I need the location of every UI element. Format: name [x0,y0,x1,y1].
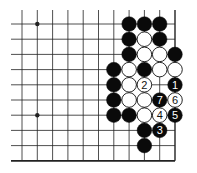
white-stone [152,47,167,62]
white-stone [122,62,137,77]
black-stone [107,93,122,108]
move-number-label: 6 [172,94,178,106]
white-stone [152,62,167,77]
black-stone [152,17,167,32]
black-stone [122,17,137,32]
black-stone: 1 [168,78,183,93]
move-number-label: 4 [157,109,163,121]
black-stone [168,47,183,62]
white-stone: 2 [137,78,152,93]
black-stone [137,62,152,77]
black-stone [137,17,152,32]
move-number-label: 5 [172,109,178,121]
black-stone [107,108,122,123]
black-stone: 3 [152,123,167,138]
star-point-icon [35,22,39,26]
go-board: 2176453 [0,0,197,173]
move-number-label: 1 [172,79,178,91]
white-stone [137,93,152,108]
move-number-label: 2 [141,79,147,91]
white-stone: 6 [168,93,183,108]
star-point-icon [35,113,39,117]
move-number-label: 3 [157,124,163,136]
black-stone [137,123,152,138]
stones-layer: 2176453 [107,17,183,153]
black-stone [107,62,122,77]
black-stone: 5 [168,108,183,123]
black-stone: 7 [152,93,167,108]
black-stone [122,32,137,47]
move-number-label: 7 [157,94,163,106]
white-stone [137,32,152,47]
white-stone [122,78,137,93]
black-stone [137,138,152,153]
white-stone [168,62,183,77]
black-stone [122,47,137,62]
black-stone [152,32,167,47]
white-stone [122,93,137,108]
white-stone [137,47,152,62]
white-stone [137,108,152,123]
black-stone [122,108,137,123]
black-stone [107,78,122,93]
white-stone: 4 [152,108,167,123]
